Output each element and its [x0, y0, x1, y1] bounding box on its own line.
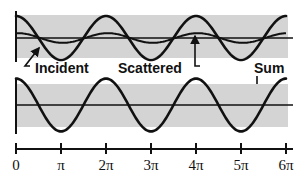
x-axis: 0 π 2π 3π 4π 5π 6π — [12, 143, 294, 173]
tick-label-2pi: 2π — [98, 157, 114, 173]
scattered-label: Scattered — [118, 60, 182, 76]
tick-label-5pi: 5π — [233, 157, 249, 173]
tick-label-0: 0 — [12, 157, 20, 173]
tick-label-4pi: 4π — [188, 157, 204, 173]
bottom-panel — [16, 79, 293, 134]
top-panel — [16, 11, 293, 62]
tick-label-6pi: 6π — [278, 157, 294, 173]
incident-label: Incident — [35, 60, 89, 76]
sum-label: Sum — [254, 60, 284, 76]
tick-label-3pi: 3π — [143, 157, 159, 173]
top-shaded-band — [16, 15, 288, 58]
tick-label-pi: π — [57, 157, 65, 173]
wave-diagram: Incident Scattered Sum 0 π 2π 3π 4π 5π 6… — [0, 0, 308, 176]
